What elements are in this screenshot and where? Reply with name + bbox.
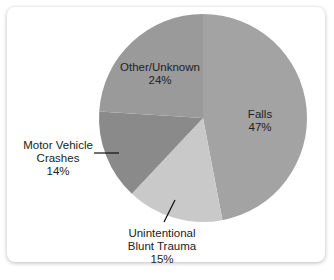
label-motor: Motor Vehicle Crashes 14%: [18, 139, 98, 178]
label-falls: Falls 47%: [240, 108, 280, 134]
label-other: Other/Unknown 24%: [120, 61, 200, 87]
label-blunt: Unintentional Blunt Trauma 15%: [122, 227, 202, 266]
